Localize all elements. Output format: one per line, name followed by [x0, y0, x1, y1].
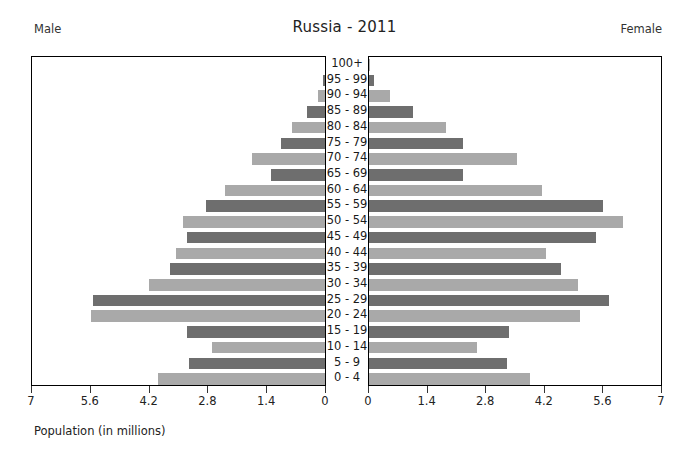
female-bar	[369, 326, 509, 338]
male-bar	[271, 169, 325, 181]
female-bar-row	[369, 246, 661, 262]
axis-tick	[325, 386, 326, 393]
female-bar-row	[369, 308, 661, 324]
female-bar	[369, 279, 578, 291]
female-bar-row	[369, 151, 661, 167]
female-bar	[369, 122, 446, 134]
female-bar-row	[369, 277, 661, 293]
female-plot-area	[368, 56, 662, 386]
axis-tick-label: 7	[657, 394, 664, 408]
male-bar	[206, 200, 325, 212]
axis-tick	[368, 386, 369, 393]
age-group-label: 0 - 4	[326, 370, 368, 386]
female-bar-row	[369, 198, 661, 214]
age-group-label: 30 - 34	[326, 276, 368, 292]
female-bar	[369, 358, 507, 370]
male-bar	[187, 326, 325, 338]
axis-tick-label: 1.4	[417, 394, 435, 408]
female-bar	[369, 216, 623, 228]
age-group-label: 80 - 84	[326, 119, 368, 135]
chart-title: Russia - 2011	[0, 18, 689, 36]
axis-tick	[31, 386, 32, 393]
male-bar-row	[32, 120, 325, 136]
male-bar	[93, 295, 325, 307]
male-bar-row	[32, 88, 325, 104]
female-bar-row	[369, 73, 661, 89]
male-x-axis: 75.64.22.81.40	[31, 386, 326, 412]
female-bar	[369, 138, 463, 150]
female-bar-row	[369, 293, 661, 309]
female-x-axis: 01.42.84.25.67	[368, 386, 662, 412]
female-bar-row	[369, 214, 661, 230]
axis-tick-label: 5.6	[81, 394, 99, 408]
female-bar-row	[369, 340, 661, 356]
female-bar-row	[369, 324, 661, 340]
male-plot-area	[31, 56, 326, 386]
axis-tick	[266, 386, 267, 393]
female-bar-row	[369, 104, 661, 120]
male-bar-row	[32, 261, 325, 277]
age-group-label: 25 - 29	[326, 292, 368, 308]
age-group-label: 5 - 9	[326, 355, 368, 371]
male-bar-row	[32, 151, 325, 167]
age-group-label: 40 - 44	[326, 245, 368, 261]
male-bar	[252, 153, 325, 165]
female-bar	[369, 169, 463, 181]
male-bar	[91, 310, 325, 322]
axis-tick	[207, 386, 208, 393]
male-bar-row	[32, 277, 325, 293]
male-bar-row	[32, 198, 325, 214]
age-group-label: 95 - 99	[326, 72, 368, 88]
female-bar	[369, 59, 370, 71]
axis-tick-label: 2.8	[476, 394, 494, 408]
female-bar	[369, 295, 609, 307]
female-bar	[369, 373, 530, 385]
male-bar-row	[32, 183, 325, 199]
age-group-label: 50 - 54	[326, 213, 368, 229]
axis-tick-label: 1.4	[257, 394, 275, 408]
male-bar	[212, 342, 325, 354]
male-bar	[307, 106, 325, 118]
male-bar	[183, 216, 325, 228]
female-bar	[369, 153, 517, 165]
female-bar-row	[369, 230, 661, 246]
male-bar	[281, 138, 325, 150]
age-group-label: 35 - 39	[326, 260, 368, 276]
male-bar-row	[32, 246, 325, 262]
axis-tick	[90, 386, 91, 393]
axis-tick	[149, 386, 150, 393]
male-bar-row	[32, 214, 325, 230]
female-bar	[369, 310, 580, 322]
age-group-label: 70 - 74	[326, 150, 368, 166]
female-bar-row	[369, 261, 661, 277]
male-bar	[292, 122, 325, 134]
axis-tick	[485, 386, 486, 393]
female-bar	[369, 106, 413, 118]
male-bar-row	[32, 371, 325, 386]
male-bar	[189, 358, 325, 370]
population-pyramid-chart: Male Russia - 2011 Female 100+95 - 9990 …	[0, 0, 689, 455]
axis-tick-label: 2.8	[198, 394, 216, 408]
female-bar-row	[369, 88, 661, 104]
male-bar	[170, 263, 325, 275]
female-bar-row	[369, 356, 661, 372]
female-bar	[369, 185, 542, 197]
male-bar-row	[32, 293, 325, 309]
male-bar	[225, 185, 325, 197]
male-bar	[149, 279, 325, 291]
axis-tick-label: 4.2	[139, 394, 157, 408]
age-group-axis: 100+95 - 9990 - 9485 - 8980 - 8475 - 797…	[326, 56, 368, 386]
axis-tick-label: 7	[27, 394, 34, 408]
male-bar-row	[32, 104, 325, 120]
male-bar-row	[32, 324, 325, 340]
male-bar-row	[32, 57, 325, 73]
female-bar-row	[369, 120, 661, 136]
age-group-label: 100+	[326, 56, 368, 72]
axis-tick	[544, 386, 545, 393]
female-bar-row	[369, 57, 661, 73]
axis-tick-label: 4.2	[535, 394, 553, 408]
female-bar-row	[369, 136, 661, 152]
male-bar-row	[32, 356, 325, 372]
axis-tick	[602, 386, 603, 393]
x-axis-caption: Population (in millions)	[34, 424, 166, 438]
